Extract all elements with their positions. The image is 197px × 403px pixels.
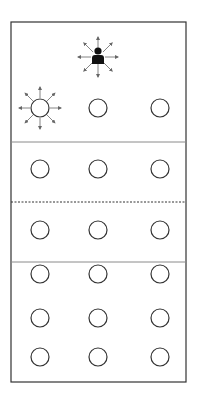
circle-node-r4-c2	[151, 309, 169, 327]
circle-node-r0-c0	[31, 99, 49, 117]
circle-node-r3-c1	[89, 265, 107, 283]
circle-node-r4-c1	[89, 309, 107, 327]
diagram-canvas	[0, 0, 197, 403]
circle-node-r3-c2	[151, 265, 169, 283]
circle-node-r0-c2	[151, 99, 169, 117]
circle-node-r1-c2	[151, 160, 169, 178]
person-source	[78, 37, 118, 77]
circle-node-r2-c2	[151, 221, 169, 239]
circle-node-r5-c0	[31, 348, 49, 366]
circle-node-r2-c0	[31, 221, 49, 239]
circle-node-r1-c0	[31, 160, 49, 178]
circle-node-r4-c0	[31, 309, 49, 327]
circle-node-r5-c2	[151, 348, 169, 366]
circle-node-r0-c1	[89, 99, 107, 117]
circle-node-r1-c1	[89, 160, 107, 178]
circle-node-r2-c1	[89, 221, 107, 239]
circle-node-r5-c1	[89, 348, 107, 366]
circle-node-r3-c0	[31, 265, 49, 283]
